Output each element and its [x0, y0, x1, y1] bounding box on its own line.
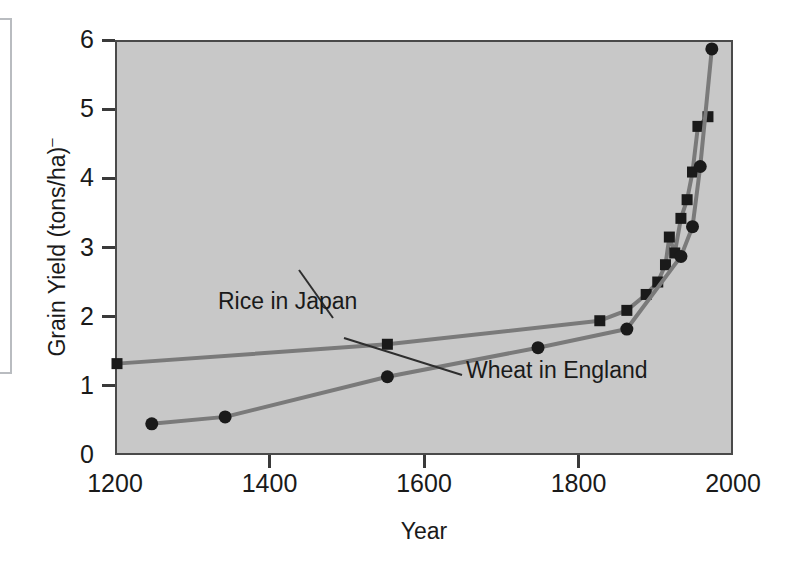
- data-point-square: [692, 121, 703, 132]
- data-point-circle: [532, 341, 545, 354]
- plot-svg: [117, 42, 735, 457]
- data-point-circle: [674, 250, 687, 263]
- y-axis-title-text: Grain Yield (tons/ha): [44, 147, 70, 357]
- x-axis-tick-label: 1400: [210, 471, 330, 496]
- y-axis-tick: [102, 246, 115, 249]
- data-point-circle: [145, 417, 158, 430]
- data-point-square: [112, 358, 123, 369]
- y-axis-tick: [102, 108, 115, 111]
- data-point-square: [382, 339, 393, 350]
- y-axis-title-superscript: –: [42, 139, 59, 147]
- x-axis-tick-label: 2000: [673, 471, 793, 496]
- data-point-circle: [381, 370, 394, 383]
- series-annotation-wheat: Wheat in England: [466, 357, 648, 384]
- chart-page: 0123456 12001400160018002000 Grain Yield…: [0, 0, 796, 561]
- x-axis-tick-label: 1600: [364, 471, 484, 496]
- x-axis-title: Year: [115, 518, 733, 545]
- y-axis-tick: [102, 177, 115, 180]
- data-point-circle: [686, 220, 699, 233]
- x-axis-tick-label: 1800: [519, 471, 639, 496]
- data-point-square: [660, 259, 671, 270]
- y-axis-tick: [102, 384, 115, 387]
- plot-area: [115, 40, 733, 455]
- data-point-square: [675, 213, 686, 224]
- data-point-square: [621, 305, 632, 316]
- x-axis-tick-label: 1200: [55, 471, 175, 496]
- data-point-circle: [620, 323, 633, 336]
- data-point-square: [682, 194, 693, 205]
- page-edge-line-top: [0, 18, 12, 20]
- data-point-circle: [705, 42, 718, 55]
- data-point-square: [664, 232, 675, 243]
- series-line: [117, 117, 708, 364]
- y-axis-tick: [102, 315, 115, 318]
- y-axis-title: Grain Yield (tons/ha)–: [34, 40, 68, 455]
- y-axis-tick: [102, 39, 115, 42]
- data-point-circle: [219, 410, 232, 423]
- data-point-circle: [694, 160, 707, 173]
- series-annotation-rice: Rice in Japan: [218, 288, 357, 315]
- data-point-square: [594, 315, 605, 326]
